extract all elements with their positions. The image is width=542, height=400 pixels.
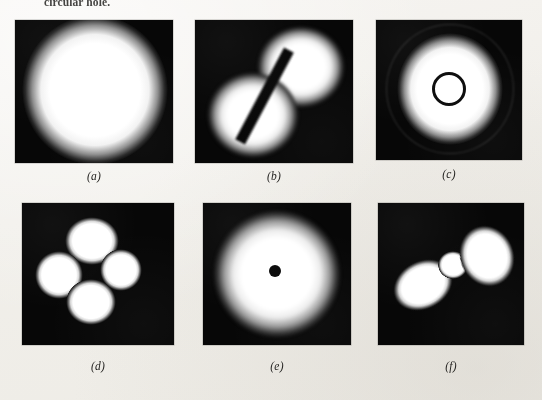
figure-panel-d [22, 203, 174, 345]
panel-label-c: (c) [376, 168, 522, 180]
lobe-d-bottom [66, 279, 116, 325]
panel-label-d: (d) [22, 360, 174, 372]
panel-label-a: (a) [15, 170, 173, 182]
panel-label-b: (b) [195, 170, 353, 182]
plate-d [22, 203, 174, 345]
figure-panel-c [376, 20, 522, 160]
plate-a [15, 20, 173, 163]
lobe-f-right [450, 217, 523, 295]
figure-panel-b [195, 20, 353, 163]
dark-dot-e [269, 265, 281, 277]
lobe-a-1 [22, 20, 168, 163]
figure-panel-f [378, 203, 524, 345]
figure-grid: (a) (b) (c) (d) (e) [0, 0, 542, 400]
plate-f [378, 203, 524, 345]
dark-ring-c [432, 72, 466, 106]
plate-c [376, 20, 522, 160]
plate-b [195, 20, 353, 163]
figure-panel-e [203, 203, 351, 345]
plate-e [203, 203, 351, 345]
panel-label-e: (e) [203, 360, 351, 372]
panel-label-f: (f) [378, 360, 524, 372]
figure-panel-a [15, 20, 173, 163]
